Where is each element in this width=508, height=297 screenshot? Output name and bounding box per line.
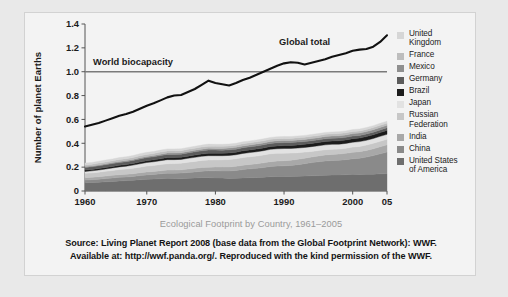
source-line-2: Available at: http://wwf.panda.org/. Rep…: [33, 250, 469, 263]
legend-label-russian-federation: Russian Federation: [409, 110, 448, 129]
legend-swatch-brazil: [397, 89, 404, 96]
legend-swatch-united-kingdom: [397, 32, 404, 39]
x-tick-label: 1990: [274, 196, 295, 207]
legend-swatch-russian-federation: [397, 113, 404, 120]
legend-label-germany: Germany: [409, 74, 442, 83]
y-tick-label: 0.2: [66, 161, 79, 172]
legend-label-mexico: Mexico: [409, 62, 435, 71]
y-tick-label: 0.6: [66, 114, 79, 125]
legend-item-brazil: Brazil: [397, 86, 481, 96]
legend-swatch-germany: [397, 77, 404, 84]
x-tick-label: 1980: [205, 196, 226, 207]
stacked-areas: [85, 121, 387, 191]
legend-label-united-kingdom: United Kingdom: [409, 29, 441, 48]
y-axis-ticks: 00.20.40.60.81.01.21.4: [66, 18, 85, 196]
figure-source: Source: Living Planet Report 2008 (base …: [33, 237, 469, 263]
x-tick-label: 2000: [342, 196, 363, 207]
legend-item-germany: Germany: [397, 74, 481, 84]
legend-label-france: France: [409, 50, 434, 59]
legend-item-united-kingdom: United Kingdom: [397, 29, 481, 48]
x-tick-label: 05: [382, 196, 392, 207]
legend-item-russian-federation: Russian Federation: [397, 110, 481, 129]
y-tick-label: 0: [74, 185, 79, 196]
legend-item-mexico: Mexico: [397, 62, 481, 72]
legend-swatch-japan: [397, 101, 404, 108]
legend-swatch-india: [397, 134, 404, 141]
x-tick-label: 1970: [136, 196, 157, 207]
legend-label-china: China: [409, 144, 430, 153]
legend-swatch-mexico: [397, 65, 404, 72]
x-tick-label: 1960: [75, 196, 96, 207]
y-tick-label: 1.4: [66, 18, 80, 29]
legend-item-india: India: [397, 132, 481, 142]
legend-label-united-states-of-america: United States of America: [409, 156, 458, 175]
figure-container: 00.20.40.60.81.01.21.4 19601970198019902…: [24, 12, 476, 276]
legend-item-united-states-of-america: United States of America: [397, 156, 481, 175]
figure-caption: Ecological Footprint by Country, 1961–20…: [25, 219, 477, 229]
chart-legend: United KingdomFranceMexicoGermanyBrazilJ…: [397, 29, 481, 177]
legend-label-japan: Japan: [409, 98, 431, 107]
legend-swatch-france: [397, 53, 404, 60]
world-biocapacity-label: World biocapacity: [93, 57, 174, 67]
legend-item-france: France: [397, 50, 481, 60]
y-tick-label: 1.2: [66, 42, 79, 53]
legend-label-india: India: [409, 132, 427, 141]
y-tick-label: 1.0: [66, 66, 79, 77]
legend-label-brazil: Brazil: [409, 86, 429, 95]
x-axis-ticks: 1960197019801990200005: [75, 191, 393, 207]
y-axis-title: Number of planet Earths: [32, 52, 43, 163]
y-axis-title-text: Number of planet Earths: [32, 52, 43, 163]
legend-swatch-united-states-of-america: [397, 158, 404, 165]
legend-item-japan: Japan: [397, 98, 481, 108]
legend-swatch-china: [397, 146, 404, 153]
y-tick-label: 0.4: [66, 138, 80, 149]
global-total-label: Global total: [279, 37, 330, 47]
legend-item-china: China: [397, 144, 481, 154]
y-tick-label: 0.8: [66, 90, 79, 101]
source-line-1: Source: Living Planet Report 2008 (base …: [33, 237, 469, 250]
global-total-line: [85, 35, 387, 126]
